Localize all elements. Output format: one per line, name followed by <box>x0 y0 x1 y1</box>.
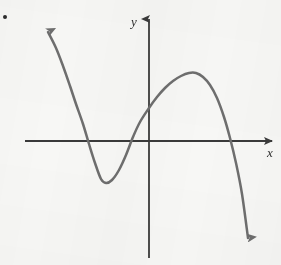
x-axis-label: x <box>266 145 273 160</box>
cubic-curve <box>48 32 248 238</box>
y-axis-label: y <box>129 14 137 29</box>
figure-root: y x <box>0 0 281 265</box>
cubic-graph-canvas: y x <box>0 0 281 265</box>
